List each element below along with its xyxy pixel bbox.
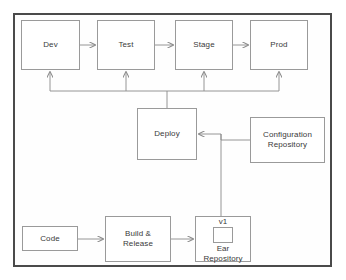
node-dev-label: Dev xyxy=(41,40,60,50)
node-build-release[interactable]: Build & Release xyxy=(105,216,171,262)
node-stage-label: Stage xyxy=(191,40,216,50)
node-deploy[interactable]: Deploy xyxy=(137,108,197,160)
node-test-label: Test xyxy=(116,40,135,50)
node-dev[interactable]: Dev xyxy=(21,20,80,70)
node-ear-repository-label-line1: Ear xyxy=(217,244,230,253)
node-stage[interactable]: Stage xyxy=(175,20,233,70)
node-code[interactable]: Code xyxy=(22,226,78,251)
node-code-label: Code xyxy=(38,234,62,244)
node-ear-repository-label: Ear Repository xyxy=(192,244,254,263)
node-ear-repository[interactable]: v1 Ear Repository xyxy=(195,216,251,262)
node-prod[interactable]: Prod xyxy=(250,20,308,70)
node-build-release-label-line2: Release xyxy=(123,239,153,248)
node-deploy-label: Deploy xyxy=(152,129,182,139)
node-configuration-repository-label-line1: Configuration xyxy=(263,130,312,139)
ear-repository-body: v1 Ear Repository xyxy=(196,217,250,261)
diagram-canvas: Dev Test Stage Prod Deploy Configuration… xyxy=(0,0,346,280)
node-test[interactable]: Test xyxy=(97,20,155,70)
node-configuration-repository-label-line2: Repository xyxy=(268,140,307,149)
node-configuration-repository[interactable]: Configuration Repository xyxy=(250,117,325,163)
node-build-release-label-line1: Build & xyxy=(125,229,151,238)
ear-repository-version: v1 xyxy=(196,218,250,226)
node-prod-label: Prod xyxy=(268,40,289,50)
node-ear-repository-label-line2: Repository xyxy=(203,254,242,263)
ear-artifact-icon xyxy=(213,227,233,243)
